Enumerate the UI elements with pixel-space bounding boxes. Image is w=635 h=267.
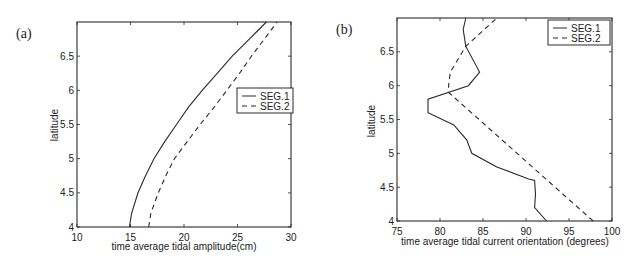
panel-label: (b) <box>336 22 353 38</box>
y-tick-label: 6 <box>388 80 394 91</box>
panel-b-tidal-orientation-chart: (b)758085909510044.555.566.5time average… <box>336 18 621 247</box>
panel-label: (a) <box>16 26 32 42</box>
legend-label: SEG.2 <box>260 101 290 112</box>
y-tick-label: 5 <box>388 148 394 159</box>
axes-frame <box>77 22 291 227</box>
x-tick-label: 30 <box>285 232 297 243</box>
y-tick-label: 5 <box>68 153 74 164</box>
y-tick-label: 5.5 <box>380 114 394 125</box>
series-line-seg2 <box>149 22 277 227</box>
panel-a-tidal-amplitude-chart: (a)101520253044.555.566.5time average ti… <box>16 22 297 252</box>
series-line-seg1 <box>129 22 266 227</box>
series-line-seg1 <box>428 18 547 221</box>
legend-label: SEG.2 <box>571 33 601 44</box>
legend: SEG.1SEG.2 <box>237 88 293 113</box>
y-axis-label: latitude <box>49 108 60 141</box>
y-tick-label: 5.5 <box>60 119 74 130</box>
series-line-seg2 <box>449 18 593 221</box>
y-tick-label: 4.5 <box>60 187 74 198</box>
axes-frame <box>397 18 612 221</box>
x-axis-label: time average tidal current orientation (… <box>401 236 609 247</box>
chart-canvas: (a)101520253044.555.566.5time average ti… <box>0 0 635 267</box>
x-tick-label: 10 <box>71 232 83 243</box>
y-tick-label: 4 <box>388 216 394 227</box>
y-tick-label: 6.5 <box>380 46 394 57</box>
figure: (a)101520253044.555.566.5time average ti… <box>0 0 635 267</box>
y-tick-label: 4 <box>68 222 74 233</box>
y-tick-label: 6 <box>68 85 74 96</box>
y-axis-label: latitude <box>366 104 377 137</box>
y-tick-label: 4.5 <box>380 182 394 193</box>
x-axis-label: time average tidal amplitude(cm) <box>111 241 256 252</box>
y-tick-label: 6.5 <box>60 51 74 62</box>
legend: SEG.1SEG.2 <box>548 20 610 45</box>
